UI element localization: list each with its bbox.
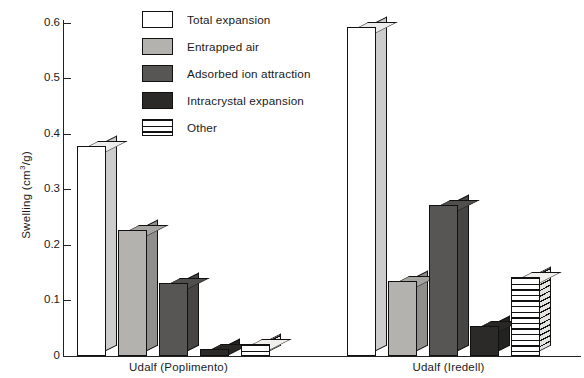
legend-swatch-intracrystal-expansion (142, 92, 173, 109)
bar-side-face (458, 194, 469, 351)
legend-item-label: Other (187, 121, 217, 134)
legend-item-label: Entrapped air (187, 40, 259, 53)
bar-total-expansion-group-2 (347, 27, 376, 356)
legend-stripe-pattern (143, 120, 172, 135)
legend-swatch-entrapped-air (142, 38, 173, 55)
x-axis-label-group-2: Udalf (Iredell) (349, 361, 549, 373)
y-axis-title-pre: Swelling (cm (20, 170, 32, 239)
plot-area (63, 18, 581, 356)
legend-swatch-other (142, 119, 173, 136)
bar-entrapped-air-group-1 (118, 230, 147, 356)
y-axis-title-post: /g) (20, 151, 32, 165)
y-axis-tick-label: 0 (24, 350, 60, 362)
bar-other-group-2 (511, 277, 540, 356)
bar-side-face (147, 219, 158, 351)
legend-item-entrapped-air: Entrapped air (142, 33, 311, 59)
bar-intracrystal-expansion-group-2 (470, 326, 499, 356)
legend-item-total-expansion: Total expansion (142, 6, 311, 32)
bar-chart: Swelling (cm3/g) 00.10.20.30.40.50.6 Uda… (0, 0, 584, 378)
bar-front-face (511, 277, 540, 356)
bar-total-expansion-group-1 (77, 146, 106, 356)
y-axis-tick-label: 0.5 (24, 72, 60, 84)
y-axis-tick-label: 0.2 (24, 239, 60, 251)
bar-side-face (376, 16, 387, 350)
bar-front-face (118, 230, 147, 356)
x-axis-label-group-1: Udalf (Poplimento) (79, 361, 279, 373)
y-axis-tick-label: 0.4 (24, 128, 60, 140)
bar-front-face (429, 205, 458, 356)
legend-item-adsorbed-ion-attraction: Adsorbed ion attraction (142, 60, 311, 86)
bar-adsorbed-ion-attraction-group-1 (159, 283, 188, 356)
bar-stripe-pattern (512, 278, 539, 355)
legend-item-label: Adsorbed ion attraction (187, 67, 311, 80)
y-axis-tick-label: 0.1 (24, 294, 60, 306)
y-axis-tick-label: 0.3 (24, 183, 60, 195)
bar-front-face (200, 349, 229, 356)
bar-front-face (347, 27, 376, 356)
bar-side-face (106, 135, 117, 350)
bar-intracrystal-expansion-group-1 (200, 349, 229, 356)
bar-adsorbed-ion-attraction-group-2 (429, 205, 458, 356)
bar-front-face (159, 283, 188, 356)
legend-item-label: Total expansion (187, 13, 270, 26)
chart-legend: Total expansionEntrapped airAdsorbed ion… (142, 6, 311, 141)
bar-entrapped-air-group-2 (388, 281, 417, 356)
bar-front-face (388, 281, 417, 356)
y-axis-title-superscript: 3 (18, 165, 27, 170)
bar-other-group-1 (241, 344, 270, 356)
legend-swatch-adsorbed-ion-attraction (142, 65, 173, 82)
legend-swatch-total-expansion (142, 11, 173, 28)
bar-front-face (77, 146, 106, 356)
bar-stripe-pattern (242, 345, 269, 355)
bar-front-face (241, 344, 270, 356)
legend-item-other: Other (142, 114, 311, 140)
legend-item-intracrystal-expansion: Intracrystal expansion (142, 87, 311, 113)
bar-front-face (470, 326, 499, 356)
bar-group-2 (347, 18, 552, 356)
y-axis-tick-label: 0.6 (24, 17, 60, 29)
legend-item-label: Intracrystal expansion (187, 94, 304, 107)
